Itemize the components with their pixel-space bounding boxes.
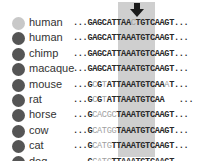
species-label: human [29,16,63,28]
species-marker-icon [12,109,25,122]
dna-sequence: ...GCGTATTAAATGTCAA ... [73,95,193,105]
conserved-bases: ...GAGCATTAAATGTCAAGT... [73,33,188,43]
species-label: chimp [29,47,58,59]
variant-bases: CACGC [92,110,116,120]
conserved-bases: ATTAAATGTCAA [107,80,165,90]
dna-sequence: ...GAGCATTAAATGTCAAGT... [73,33,188,43]
conserved-bases: ...G [73,95,92,105]
species-label: dog [29,155,47,161]
conserved-bases: ...G [73,157,92,161]
variant-bases: CATG [92,141,111,151]
variant-bases: CATG [92,157,111,161]
sequence-row-mouse: mouse...GCGTATTAAATGTCAAAT... [0,79,212,94]
sequence-row-cow: cow...GCATGGTAAATGTCAAGT... [0,125,212,140]
conserved-bases: ...G [73,80,92,90]
sequence-row-human: human...GAGCATTAACTGTCAAGT... [0,17,212,32]
species-label: macaque [29,62,74,74]
sequence-row-human: human...GAGCATTAAATGTCAAGT... [0,32,212,47]
down-arrow-icon [129,3,145,17]
dna-sequence: ...GAGCATTAAATGTCAAGT... [73,64,188,74]
species-label: mouse [29,78,62,90]
species-label: cat [29,139,44,151]
alignment-rows: human...GAGCATTAACTGTCAAGT...human...GAG… [0,17,212,161]
dna-sequence: ...GAGCATTAACTGTCAAGT... [73,18,188,28]
conserved-bases: TTAAATGTCAAGT... [111,157,188,161]
conserved-bases: TAAATGTCAAGT... [116,110,188,120]
species-marker-icon [12,79,25,92]
conserved-bases: ATTAAATGTCAA ... [107,95,194,105]
dna-sequence: ...GAGCATTAAATGTCAAGT... [73,49,188,59]
dna-sequence: ...GCATGGTAAATGTCAAGT... [73,126,188,136]
conserved-bases: ...G [73,110,92,120]
species-marker-icon [12,94,25,107]
sequence-row-cat: cat...GCATGTTAAATGTCAAGT... [0,140,212,155]
conserved-bases: ...GAGCATTAA [73,18,131,28]
species-marker-icon [12,17,25,30]
species-marker-icon [12,156,25,161]
species-label: rat [29,93,42,105]
conserved-bases: TTAAATGTCAAGT... [111,141,188,151]
conserved-bases: ...GAGCATTAAATGTCAAGT... [73,64,188,74]
sequence-row-horse: horse...GCACGCTAAATGTCAAGT... [0,109,212,124]
species-marker-icon [12,32,25,45]
conserved-bases: T... [169,80,188,90]
sequence-row-macaque: macaque...GAGCATTAAATGTCAAGT... [0,63,212,78]
variant-bases: CATGG [92,126,116,136]
conserved-bases: ...GAGCATTAAATGTCAAGT... [73,49,188,59]
species-marker-icon [12,125,25,138]
sequence-row-chimp: chimp...GAGCATTAAATGTCAAGT... [0,48,212,63]
species-marker-icon [12,63,25,76]
dna-sequence: ...GCATGTTAAATGTCAAGT... [73,157,188,161]
species-label: horse [29,108,57,120]
species-marker-icon [12,48,25,61]
species-label: human [29,31,63,43]
conserved-bases: TGTCAAGT... [136,18,189,28]
dna-sequence: ...GCGTATTAAATGTCAAAT... [73,80,188,90]
dna-sequence: ...GCACGCTAAATGTCAAGT... [73,110,188,120]
conserved-bases: ...G [73,141,92,151]
conserved-bases: TAAATGTCAAGT... [116,126,188,136]
sequence-row-rat: rat...GCGTATTAAATGTCAA ... [0,94,212,109]
species-marker-icon [12,140,25,153]
sequence-row-dog: dog...GCATGTTAAATGTCAAGT... [0,156,212,161]
species-label: cow [29,124,49,136]
conserved-bases: ...G [73,126,92,136]
dna-sequence: ...GCATGTTAAATGTCAAGT... [73,141,188,151]
